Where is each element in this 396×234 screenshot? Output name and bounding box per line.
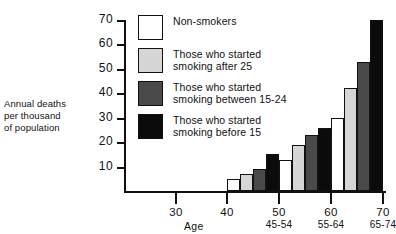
y-tick-label-70: 70 bbox=[99, 12, 113, 26]
bar-45-54-those-who-started-smoking-before-15 bbox=[266, 154, 279, 191]
y-tick-label-20: 20 bbox=[99, 134, 113, 148]
x-tick-label-60: 60 bbox=[324, 206, 338, 218]
y-axis-title-line-2: per thousand bbox=[4, 110, 96, 122]
x-axis-line bbox=[124, 191, 386, 193]
y-tick-10: 10 bbox=[117, 167, 124, 169]
y-tick-20: 20 bbox=[117, 142, 124, 144]
legend-label-2-line2: smoking between 15-24 bbox=[173, 94, 287, 106]
legend-label-0: Non-smokers bbox=[173, 15, 237, 28]
bar-55-64-those-who-started-smoking-after-25 bbox=[292, 145, 305, 191]
y-axis-title-line-1: Annual deaths bbox=[4, 98, 96, 110]
y-tick-label-40: 40 bbox=[99, 85, 113, 99]
bar-55-64-non-smokers bbox=[279, 160, 292, 191]
plot-area: 10203040506070 304050607045-5455-6465-74… bbox=[124, 20, 386, 192]
legend-label-2: Those who startedsmoking between 15-24 bbox=[173, 81, 287, 105]
legend-label-2-line1: Those who started bbox=[173, 81, 261, 93]
legend-swatch-white bbox=[138, 15, 163, 40]
x-tick-label-50: 50 bbox=[272, 206, 286, 218]
x-tick-30 bbox=[175, 193, 177, 204]
x-sub-label-55-64: 55-64 bbox=[318, 219, 345, 230]
bar-65-74-those-who-started-smoking-before-15 bbox=[370, 20, 383, 191]
x-sub-label-65-74: 65-74 bbox=[370, 219, 396, 230]
bar-55-64-those-who-started-smoking-between-15-24 bbox=[305, 135, 318, 191]
legend-label-0-line1: Non-smokers bbox=[173, 15, 237, 27]
x-tick-60 bbox=[330, 193, 332, 204]
bar-55-64-those-who-started-smoking-before-15 bbox=[318, 128, 331, 192]
legend-label-1-line1: Those who started bbox=[173, 48, 261, 60]
legend-label-3: Those who startedsmoking before 15 bbox=[173, 114, 261, 138]
y-tick-label-60: 60 bbox=[99, 36, 113, 50]
legend-label-1: Those who startedsmoking after 25 bbox=[173, 48, 261, 72]
bar-45-54-those-who-started-smoking-after-25 bbox=[240, 174, 253, 191]
x-tick-40 bbox=[226, 193, 228, 204]
x-tick-50 bbox=[278, 193, 280, 204]
y-tick-label-50: 50 bbox=[99, 61, 113, 75]
y-tick-50: 50 bbox=[117, 69, 124, 71]
legend-item-1: Those who startedsmoking after 25 bbox=[138, 48, 261, 73]
x-axis-title: Age bbox=[184, 220, 204, 232]
legend-label-3-line1: Those who started bbox=[173, 114, 261, 126]
y-tick-label-30: 30 bbox=[99, 110, 113, 124]
y-axis-title-line-3: of population bbox=[4, 122, 96, 134]
y-tick-30: 30 bbox=[117, 118, 124, 120]
bar-65-74-those-who-started-smoking-after-25 bbox=[344, 88, 357, 191]
bar-45-54-those-who-started-smoking-between-15-24 bbox=[253, 169, 266, 191]
y-tick-label-10: 10 bbox=[99, 159, 113, 173]
legend-swatch-dark-gray bbox=[138, 81, 163, 106]
y-tick-70: 70 bbox=[117, 20, 124, 22]
legend-item-3: Those who startedsmoking before 15 bbox=[138, 114, 261, 139]
x-tick-label-70: 70 bbox=[376, 206, 390, 218]
legend-item-0: Non-smokers bbox=[138, 15, 237, 40]
bar-45-54-non-smokers bbox=[227, 179, 240, 191]
x-tick-label-30: 30 bbox=[169, 206, 183, 218]
x-sub-label-45-54: 45-54 bbox=[266, 219, 293, 230]
legend-label-3-line2: smoking before 15 bbox=[173, 127, 261, 139]
x-tick-70 bbox=[382, 193, 384, 204]
y-tick-60: 60 bbox=[117, 44, 124, 46]
y-tick-40: 40 bbox=[117, 93, 124, 95]
y-axis-title: Annual deaths per thousand of population bbox=[4, 98, 96, 134]
legend-swatch-light-gray bbox=[138, 48, 163, 73]
bar-65-74-non-smokers bbox=[331, 118, 344, 191]
y-axis-line bbox=[124, 20, 126, 193]
x-tick-label-40: 40 bbox=[220, 206, 234, 218]
legend-item-2: Those who startedsmoking between 15-24 bbox=[138, 81, 287, 106]
bar-65-74-those-who-started-smoking-between-15-24 bbox=[357, 62, 370, 191]
legend-label-1-line2: smoking after 25 bbox=[173, 61, 261, 73]
legend-swatch-black bbox=[138, 114, 163, 139]
